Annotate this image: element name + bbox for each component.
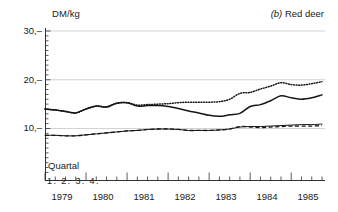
x-axis-label: Quartal: [48, 160, 79, 171]
x-tick-label-1984: 1984: [247, 191, 287, 202]
y-axis-label: DM/kg: [52, 8, 80, 19]
x-tick-label-1981: 1981: [124, 191, 164, 202]
y-tick-label-10: 10,–: [8, 122, 42, 133]
x-tick-label-1985: 1985: [288, 191, 328, 202]
panel-title: (b) Red deer: [271, 8, 324, 19]
axis-spines: [45, 28, 325, 181]
chart-figure: DM/kg (b) Red deer 30,– 20,– 10,– Quarta…: [0, 0, 338, 212]
quarter-tick-labels: 1. 2. 3. 4.: [47, 176, 100, 186]
y-tick-label-20: 20,–: [8, 74, 42, 85]
x-tick-label-1980: 1980: [83, 191, 123, 202]
data-series-group: [45, 82, 322, 136]
x-tick-label-1982: 1982: [165, 191, 205, 202]
x-tick-label-1983: 1983: [206, 191, 246, 202]
series-line-lower-dashed: [45, 126, 322, 136]
gridlines: [45, 31, 325, 129]
panel-name: Red deer: [285, 8, 324, 19]
panel-tag: (b): [271, 8, 283, 19]
y-tick-label-30: 30,–: [8, 25, 42, 36]
x-tick-label-1979: 1979: [42, 191, 82, 202]
y-axis-ticks: [46, 31, 51, 172]
series-line-upper-solid: [45, 95, 322, 116]
